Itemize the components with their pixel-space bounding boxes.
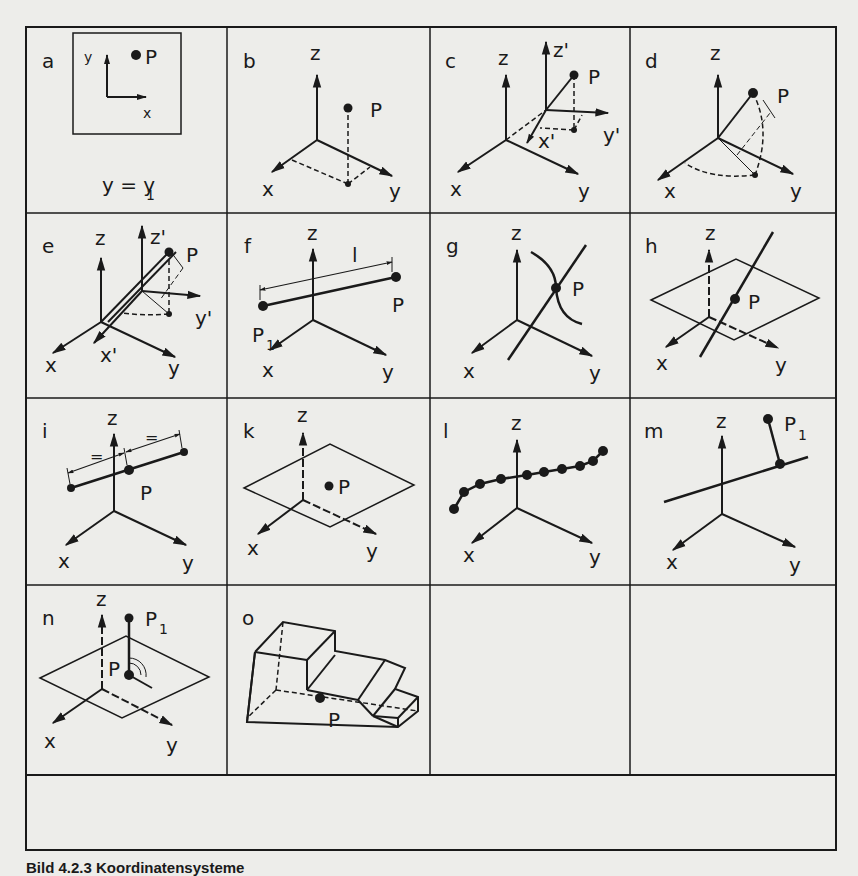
svg-text:z: z (297, 403, 308, 427)
panel-c: c z x y z' x' y' P (445, 38, 620, 203)
svg-text:1: 1 (266, 337, 275, 353)
svg-text:y: y (182, 551, 194, 575)
svg-text:x: x (664, 179, 676, 203)
svg-text:l: l (443, 419, 449, 443)
svg-text:x: x (262, 177, 274, 201)
svg-text:l: l (352, 243, 358, 267)
svg-text:x: x (45, 353, 57, 377)
panel-e: e z x y z' x' y' P (42, 225, 212, 380)
svg-text:=: = (145, 428, 158, 447)
panel-m: m z x y P 1 (644, 409, 808, 577)
svg-text:x: x (58, 549, 70, 573)
svg-text:x': x' (100, 343, 117, 367)
svg-text:i: i (42, 419, 48, 443)
svg-text:o: o (242, 606, 254, 630)
svg-text:z: z (310, 41, 321, 65)
svg-text:1: 1 (159, 621, 168, 637)
panel-b: b z x y P (243, 41, 401, 203)
svg-text:f: f (244, 234, 252, 258)
svg-text:y: y (589, 361, 601, 385)
svg-text:P: P (777, 84, 789, 108)
svg-text:z: z (95, 226, 106, 250)
svg-text:x': x' (538, 129, 555, 153)
svg-text:P: P (108, 657, 120, 681)
svg-text:x: x (143, 105, 151, 121)
svg-text:P: P (392, 293, 404, 317)
panel-g: g z x y P (446, 221, 601, 385)
svg-text:z: z (705, 221, 716, 245)
panel-f: f z x y P P 1 l (244, 221, 404, 384)
panel-o: o P (242, 606, 418, 732)
svg-text:x: x (656, 351, 668, 375)
svg-text:z: z (96, 587, 107, 611)
svg-text:z': z' (150, 225, 166, 249)
svg-text:z': z' (553, 38, 569, 62)
svg-text:x: x (247, 536, 259, 560)
panel-label: a (42, 49, 54, 73)
svg-text:y': y' (603, 123, 620, 147)
svg-text:y: y (790, 179, 802, 203)
point-marker (131, 50, 141, 60)
svg-text:z: z (716, 409, 727, 433)
svg-text:g: g (446, 234, 459, 258)
svg-text:P: P (145, 45, 157, 69)
svg-text:y: y (168, 356, 180, 380)
svg-text:z: z (107, 406, 118, 430)
svg-text:d: d (645, 49, 658, 73)
svg-text:y: y (166, 733, 178, 757)
svg-text:y: y (589, 545, 601, 569)
svg-text:P: P (328, 708, 340, 732)
svg-text:y: y (789, 553, 801, 577)
svg-text:P: P (186, 243, 198, 267)
panel-k: k z x y P (243, 403, 414, 563)
svg-text:c: c (445, 49, 456, 73)
svg-text:y: y (382, 360, 394, 384)
panel-d: d z x y P (645, 41, 802, 203)
panel-l: l z x y (443, 411, 608, 569)
svg-text:y: y (775, 353, 787, 377)
panel-a: a y x P y = y 1 (42, 33, 181, 203)
svg-text:y: y (84, 49, 92, 65)
figure-caption: Bild 4.2.3 Koordinatensysteme (26, 859, 244, 876)
svg-text:z: z (710, 41, 721, 65)
svg-text:z: z (307, 221, 318, 245)
svg-text:z: z (511, 221, 522, 245)
svg-text:z: z (498, 46, 509, 70)
svg-text:y: y (389, 179, 401, 203)
curve-points (449, 446, 608, 514)
panel-n: n z x y P P 1 (40, 587, 209, 757)
svg-text:=: = (90, 447, 103, 466)
panel-i: i = = z x y P (42, 406, 194, 575)
svg-text:n: n (42, 606, 55, 630)
svg-text:P: P (588, 65, 600, 89)
svg-text:P: P (370, 98, 382, 122)
svg-text:P: P (784, 412, 796, 436)
svg-text:x: x (666, 550, 678, 574)
panel-h: h z x y P (645, 221, 819, 377)
svg-text:k: k (243, 419, 255, 443)
svg-text:1: 1 (146, 187, 155, 203)
svg-text:m: m (644, 419, 663, 443)
svg-text:x: x (450, 177, 462, 201)
svg-text:z: z (511, 411, 522, 435)
svg-text:y': y' (195, 306, 212, 330)
svg-text:P: P (140, 481, 152, 505)
svg-text:P: P (572, 277, 584, 301)
svg-text:x: x (463, 543, 475, 567)
svg-text:P: P (145, 607, 157, 631)
svg-text:x: x (463, 359, 475, 383)
svg-text:1: 1 (798, 427, 807, 443)
svg-text:x: x (262, 358, 274, 382)
svg-text:e: e (42, 234, 54, 258)
svg-text:x: x (44, 729, 56, 753)
svg-text:h: h (645, 234, 658, 258)
svg-text:y: y (578, 179, 590, 203)
svg-text:b: b (243, 49, 256, 73)
svg-text:y: y (366, 539, 378, 563)
svg-text:P: P (338, 475, 350, 499)
svg-text:P: P (252, 323, 264, 347)
svg-text:P: P (748, 290, 760, 314)
